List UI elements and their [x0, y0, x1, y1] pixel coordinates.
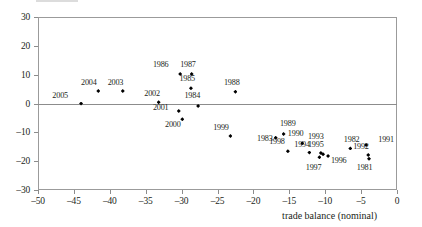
- data-point-label: 1984: [184, 91, 200, 100]
- y-tick-mark: [34, 17, 38, 18]
- y-tick-label: 20: [2, 41, 30, 51]
- crop-artifact: [36, 0, 78, 2]
- x-tick-mark: [182, 190, 183, 194]
- x-tick-mark: [218, 190, 219, 194]
- x-tick-mark: [110, 190, 111, 194]
- x-tick-label: –30: [175, 196, 189, 206]
- data-point-label: 1985: [179, 74, 195, 83]
- data-point-label: 1989: [280, 119, 296, 128]
- y-tick-mark: [34, 161, 38, 162]
- data-point-label: 2000: [165, 120, 181, 129]
- data-point-label: 1981: [357, 163, 373, 172]
- scatter-chart: –50–45–40–35–30–25–20–15–10–50–30–20–100…: [0, 0, 422, 227]
- x-tick-label: –50: [31, 196, 45, 206]
- data-point-label: 1987: [180, 60, 196, 69]
- y-tick-label: –20: [2, 156, 30, 166]
- data-point-label: 1982: [344, 135, 360, 144]
- y-tick-mark: [34, 46, 38, 47]
- x-tick-label: –20: [247, 196, 261, 206]
- x-tick-mark: [38, 190, 39, 194]
- x-tick-label: –35: [139, 196, 153, 206]
- y-tick-mark: [34, 104, 38, 105]
- x-tick-mark: [146, 190, 147, 194]
- y-tick-label: –30: [2, 185, 30, 195]
- x-tick-mark: [74, 190, 75, 194]
- x-axis-title: trade balance (nominal): [282, 210, 377, 221]
- x-tick-label: –15: [282, 196, 296, 206]
- zero-reference-line: [38, 104, 397, 105]
- data-point-label: 2002: [144, 89, 160, 98]
- data-point-label: 1997: [306, 163, 322, 172]
- x-tick-mark: [361, 190, 362, 194]
- x-tick-label: 0: [395, 196, 400, 206]
- data-point-label: 1996: [331, 156, 347, 165]
- data-point-label: 1983: [257, 134, 273, 143]
- x-tick-mark: [325, 190, 326, 194]
- y-tick-label: –10: [2, 127, 30, 137]
- data-point-label: 1986: [153, 60, 169, 69]
- y-tick-label: 0: [2, 99, 30, 109]
- x-tick-mark: [289, 190, 290, 194]
- y-tick-label: 10: [2, 70, 30, 80]
- y-tick-mark: [34, 190, 38, 191]
- data-point-label: 2005: [52, 91, 68, 100]
- x-tick-label: –25: [211, 196, 225, 206]
- data-point-label: 1999: [213, 123, 229, 132]
- x-tick-label: –5: [357, 196, 366, 206]
- x-tick-mark: [253, 190, 254, 194]
- data-point-label: 2004: [81, 78, 97, 87]
- data-point-label: 2003: [108, 78, 124, 87]
- data-point-label: 1990: [288, 129, 304, 138]
- data-point-label: 1995: [308, 140, 324, 149]
- x-tick-mark: [397, 190, 398, 194]
- y-tick-mark: [34, 132, 38, 133]
- x-tick-label: –10: [318, 196, 332, 206]
- data-point-label: 1991: [378, 135, 394, 144]
- x-tick-label: –45: [67, 196, 81, 206]
- data-point-label: 2001: [153, 103, 169, 112]
- x-tick-label: –40: [103, 196, 117, 206]
- data-point-label: 1988: [224, 78, 240, 87]
- y-tick-label: 30: [2, 12, 30, 22]
- y-tick-mark: [34, 75, 38, 76]
- data-point-label: 1993: [308, 132, 324, 141]
